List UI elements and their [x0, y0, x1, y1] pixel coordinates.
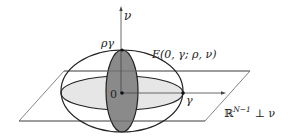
top-point [120, 48, 123, 51]
plane-label: ℝN−1⊥ ν [224, 105, 276, 120]
nu-axis-arrowhead [119, 6, 122, 11]
plane-label-suffix: ⊥ ν [255, 107, 276, 120]
origin-label: 0 [110, 88, 117, 101]
top-point-label: ργ [100, 37, 114, 50]
nu-axis-label: ν [124, 9, 131, 23]
gamma-label: γ [186, 94, 193, 107]
gamma-axis-arrowhead [221, 91, 226, 94]
origin-point [120, 91, 124, 95]
ellipsoid-diagram: ν ργ E(0, γ; ρ, ν) 0 γ ℝN−1⊥ ν [0, 0, 297, 140]
gamma-point [181, 91, 185, 95]
plane-label-sup: N−1 [232, 105, 251, 114]
ellipsoid-label: E(0, γ; ρ, ν) [151, 48, 217, 61]
